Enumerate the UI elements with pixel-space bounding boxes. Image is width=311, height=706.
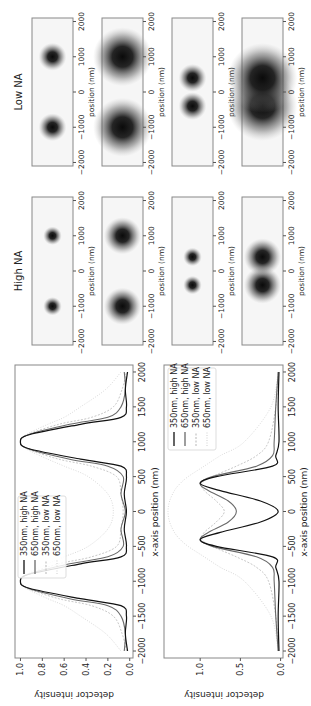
x-tick-label: 0 <box>77 89 86 94</box>
x-tick-label: −1000 <box>288 568 297 595</box>
x-tick-label: −1000 <box>147 114 156 140</box>
legend-entry: 350nm, high NA <box>20 491 29 556</box>
x-axis-label: position (nm) <box>87 67 96 117</box>
x-tick-label: 1000 <box>217 226 226 245</box>
x-tick-label: 1000 <box>77 226 86 245</box>
x-tick-label: 1000 <box>287 47 296 66</box>
x-axis-label: position (nm) <box>157 246 166 296</box>
point-spread-spot <box>179 92 207 120</box>
x-axis-ticks: −2000−1500−1000−5000500100015002000 <box>133 362 147 665</box>
line-plot-far-sources: −2000−1500−1000−5000500100015002000 0.00… <box>15 362 160 700</box>
x-tick-label: −1500 <box>288 603 297 630</box>
x-tick-label: 1500 <box>138 397 147 417</box>
x-tick-label: 1000 <box>147 47 156 66</box>
image-panel: −2000−1000010002000position (nm) <box>32 191 96 354</box>
y-tick-label: 0.0 <box>126 663 135 676</box>
point-spread-spot <box>104 217 141 254</box>
legend-entry: 350nm, low NA <box>192 367 201 428</box>
x-tick-label: 2000 <box>287 12 296 31</box>
x-tick-label: −1000 <box>77 114 86 140</box>
x-tick-label: −2000 <box>217 329 226 355</box>
x-tick-label: 1000 <box>288 432 297 452</box>
x-tick-label: −2000 <box>287 150 296 176</box>
legend-entry: 350nm, high NA <box>170 363 179 428</box>
y-tick-label: 0.2 <box>104 663 113 676</box>
x-tick-label: 0 <box>77 268 86 273</box>
legend-entry: 650nm, low NA <box>203 367 212 428</box>
figure: −2000−1500−1000−5000500100015002000 0.00… <box>0 0 311 706</box>
x-tick-label: −2000 <box>147 150 156 176</box>
image-panels-high-na: High NA −2000−1000010002000position (nm)… <box>13 191 306 354</box>
x-tick-label: 0 <box>217 268 226 273</box>
y-axis-label: detector intensity <box>33 690 114 700</box>
x-tick-label: 0 <box>147 268 156 273</box>
x-tick-label: 0 <box>287 268 296 273</box>
x-tick-label: 2000 <box>217 191 226 210</box>
point-spread-spot <box>43 297 62 316</box>
x-tick-label: 1000 <box>138 432 147 452</box>
x-tick-label: 2000 <box>287 191 296 210</box>
image-panel: −2000−1000010002000position (nm) <box>228 12 306 175</box>
x-axis-label: position (nm) <box>297 246 306 296</box>
x-tick-label: 0 <box>287 89 296 94</box>
x-tick-label: 1000 <box>287 226 296 245</box>
x-tick-label: −2000 <box>217 150 226 176</box>
x-axis-label: x-axis position (nm) <box>150 467 160 556</box>
x-tick-label: −1000 <box>217 293 226 319</box>
x-tick-label: −1000 <box>217 114 226 140</box>
x-axis-label: position (nm) <box>227 246 236 296</box>
image-panel: −2000−1000010002000position (nm) <box>32 12 96 175</box>
x-axis-label: position (nm) <box>87 246 96 296</box>
legend: 350nm, high NA650nm, high NA350nm, low N… <box>168 363 216 450</box>
x-tick-label: −2000 <box>77 329 86 355</box>
point-spread-spot <box>39 43 67 71</box>
x-tick-label: −1000 <box>138 568 147 595</box>
y-tick-label: 0.5 <box>236 663 245 676</box>
x-tick-label: 0 <box>217 89 226 94</box>
x-axis-label: position (nm) <box>157 67 166 117</box>
y-axis-label: detector intensity <box>183 690 264 700</box>
point-spread-spot <box>104 288 141 325</box>
panel-title: Low NA <box>13 73 24 110</box>
x-tick-label: 0 <box>288 509 297 514</box>
x-tick-label: −1000 <box>287 114 296 140</box>
x-tick-label: −1500 <box>138 603 147 630</box>
x-axis-label: position (nm) <box>297 67 306 117</box>
y-axis-ticks: 0.00.51.0 <box>196 658 285 676</box>
x-tick-label: 1500 <box>288 397 297 417</box>
image-panels-low-na: Low NA −2000−1000010002000position (nm)−… <box>13 12 306 175</box>
x-tick-label: 1000 <box>147 226 156 245</box>
x-tick-label: −500 <box>138 535 147 557</box>
y-tick-label: 0.6 <box>60 663 69 676</box>
legend: 350nm, high NA650nm, high NA350nm, low N… <box>18 491 66 578</box>
x-tick-label: 2000 <box>147 12 156 31</box>
image-panel: −2000−1000010002000position (nm) <box>242 191 306 354</box>
legend-entry: 350nm, low NA <box>42 495 51 556</box>
x-tick-label: 500 <box>138 469 147 484</box>
y-tick-label: 1.0 <box>16 663 25 676</box>
point-spread-spot <box>179 64 207 92</box>
x-tick-label: −2000 <box>288 637 297 664</box>
y-axis-ticks: 0.00.20.40.60.81.0 <box>16 658 134 676</box>
y-tick-label: 0.8 <box>38 663 47 676</box>
line-plot-near-sources: −2000−1500−1000−5000500100015002000 0.00… <box>164 362 309 700</box>
x-tick-label: 0 <box>147 89 156 94</box>
x-tick-label: −2000 <box>77 150 86 176</box>
image-panel: −2000−1000010002000position (nm) <box>102 191 166 354</box>
image-panel: −2000−1000010002000position (nm) <box>172 12 236 175</box>
legend-entry: 650nm, high NA <box>31 491 40 556</box>
point-spread-spot <box>43 226 62 245</box>
x-tick-label: −1000 <box>287 293 296 319</box>
x-axis-label: x-axis position (nm) <box>299 467 309 556</box>
x-tick-label: −1000 <box>147 293 156 319</box>
x-tick-label: 0 <box>138 509 147 514</box>
legend-entry: 650nm, high NA <box>181 363 190 428</box>
x-tick-label: −2000 <box>287 329 296 355</box>
x-tick-label: 1000 <box>217 47 226 66</box>
point-spread-spot <box>244 238 281 275</box>
point-spread-spot <box>39 113 67 141</box>
x-tick-label: 2000 <box>217 12 226 31</box>
x-tick-label: 2000 <box>288 362 297 382</box>
image-panel: −2000−1000010002000position (nm) <box>172 191 236 354</box>
legend-entry: 650nm, low NA <box>53 495 62 556</box>
